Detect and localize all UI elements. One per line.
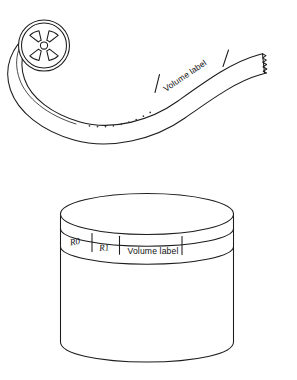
- magnetic-tape-reel: Volume label: [8, 20, 267, 144]
- cylinder-top-ellipse: [61, 194, 234, 235]
- tape-divider-1: [155, 75, 160, 93]
- reel-hub: [19, 20, 70, 71]
- band-cell-volume-label-text: Volume label: [128, 246, 179, 256]
- cylinder-body: [61, 214, 234, 362]
- reel-outer-rim: [19, 20, 70, 71]
- tape-divider-2: [223, 50, 229, 67]
- band-cell-r1-label: R1: [98, 242, 110, 253]
- disk-pack-cylinder: R0 R1 Volume label: [61, 194, 234, 363]
- figure-canvas: Volume label: [0, 0, 297, 380]
